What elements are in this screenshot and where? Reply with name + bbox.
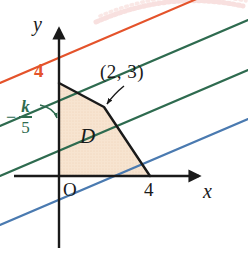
x-axis-label: x xyxy=(203,181,212,201)
slope-label-numerator: k xyxy=(19,98,32,116)
figure-canvas xyxy=(0,0,248,254)
point-label-2-3: (2, 3) xyxy=(100,62,144,81)
y-axis-label: y xyxy=(33,14,42,34)
x-axis-tick-label-4: 4 xyxy=(144,180,154,199)
region-label-d: D xyxy=(80,126,95,147)
feasible-region-d xyxy=(59,83,150,176)
y-axis-tick-label-4: 4 xyxy=(34,61,44,80)
slope-label-fraction: k 5 xyxy=(19,98,32,136)
math-figure: y x O 4 4 D (2, 3) − k 5 xyxy=(0,0,248,254)
slope-label-minus-k-over-5: − k 5 xyxy=(6,98,32,136)
slope-label-minus-sign: − xyxy=(6,108,16,126)
point-callout-arrow xyxy=(107,86,124,104)
origin-label: O xyxy=(63,180,77,199)
slope-label-denominator: 5 xyxy=(19,118,32,136)
